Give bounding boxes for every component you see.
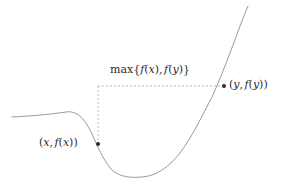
xfx-comma: , [50, 136, 54, 149]
function-curve [12, 6, 248, 177]
point-y-fy-label: (y,f(y)) [229, 79, 268, 90]
point-x-fx-label: (x,f(x)) [39, 137, 78, 148]
max-close-brace: } [183, 63, 190, 76]
max-label: max{f(x),f(y)} [110, 64, 190, 75]
max-comma: , [159, 63, 163, 76]
figure-canvas: max{f(x),f(y)} (x,f(x)) (y,f(y)) [0, 0, 287, 188]
point-y-fy [222, 84, 226, 88]
point-x-fx [96, 142, 100, 146]
xfx-close-paren: ) [73, 136, 77, 149]
max-operator: max [110, 63, 133, 76]
diagram-svg [0, 0, 287, 188]
yfy-close-paren: ) [263, 78, 267, 91]
yfy-comma: , [240, 78, 244, 91]
